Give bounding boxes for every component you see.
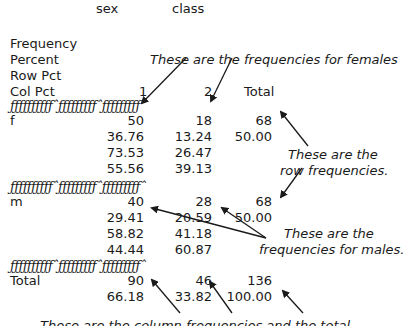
column-header-1: 1 [139, 84, 147, 99]
cell-total-1-freq: 90 [100, 273, 144, 288]
stat-label-frequency: Frequency [10, 36, 77, 51]
stat-label-row-pct: Row Pct [10, 68, 61, 83]
cell-m-2-rowpct: 41.18 [168, 226, 212, 241]
cell-total-1-pct: 66.18 [100, 289, 144, 304]
row-label-f: f [10, 113, 15, 128]
cell-m-2-colpct: 60.87 [168, 242, 212, 257]
cell-f-1-rowpct: 73.53 [100, 145, 144, 160]
annotation-males-line2: frequencies for males. [259, 242, 404, 257]
annotation-row-line2: row frequencies. [280, 163, 388, 178]
row-label-m: m [10, 194, 23, 209]
column-header-total: Total [244, 84, 274, 99]
cell-m-total-freq: 68 [226, 194, 272, 209]
row-label-total: Total [10, 273, 40, 288]
cell-m-1-pct: 29.41 [100, 210, 144, 225]
arrow-icon [281, 112, 308, 146]
separator-line: ƒƒƒƒƒƒƒƒƒƒˆƒƒƒƒƒƒƒƒƒˆƒƒƒƒƒƒƒƒƒˆ [10, 258, 146, 273]
separator-line: ƒƒƒƒƒƒƒƒƒƒˆƒƒƒƒƒƒƒƒƒˆƒƒƒƒƒƒƒƒƒˆ [10, 98, 146, 113]
cell-m-2-pct: 20.59 [168, 210, 212, 225]
annotation-males-line1: These are the [284, 226, 374, 241]
stat-label-col-pct: Col Pct [10, 84, 55, 99]
annotation-bottom: These are the column frequencies and the… [40, 318, 350, 326]
cell-f-2-colpct: 39.13 [168, 161, 212, 176]
column-header-2: 2 [204, 84, 212, 99]
cell-m-total-pct: 50.00 [226, 210, 272, 225]
cell-f-1-pct: 36.76 [100, 129, 144, 144]
cell-total-2-freq: 46 [168, 273, 212, 288]
cell-f-2-freq: 18 [168, 113, 212, 128]
row-variable-label: sex [96, 1, 118, 16]
cell-m-1-colpct: 44.44 [100, 242, 144, 257]
column-variable-label: class [172, 1, 204, 16]
separator-line: ƒƒƒƒƒƒƒƒƒƒˆƒƒƒƒƒƒƒƒƒˆƒƒƒƒƒƒƒƒƒˆ [10, 179, 146, 194]
cell-total-2-pct: 33.82 [168, 289, 212, 304]
cell-f-2-rowpct: 26.47 [168, 145, 212, 160]
cell-m-1-freq: 40 [100, 194, 144, 209]
cell-grand-total-pct: 100.00 [226, 289, 272, 304]
cell-f-1-freq: 50 [100, 113, 144, 128]
cell-grand-total-freq: 136 [226, 273, 272, 288]
cell-f-1-colpct: 55.56 [100, 161, 144, 176]
annotation-females: These are the frequencies for females [150, 52, 398, 67]
cell-f-total-freq: 68 [226, 113, 272, 128]
stat-label-percent: Percent [10, 52, 59, 67]
arrow-icon [283, 291, 303, 313]
cell-f-2-pct: 13.24 [168, 129, 212, 144]
annotation-row-line1: These are the [288, 147, 378, 162]
cell-f-total-pct: 50.00 [226, 129, 272, 144]
cell-m-2-freq: 28 [168, 194, 212, 209]
bottom-annotation-clipped: These are the column frequencies and the… [0, 318, 392, 326]
cell-m-1-rowpct: 58.82 [100, 226, 144, 241]
